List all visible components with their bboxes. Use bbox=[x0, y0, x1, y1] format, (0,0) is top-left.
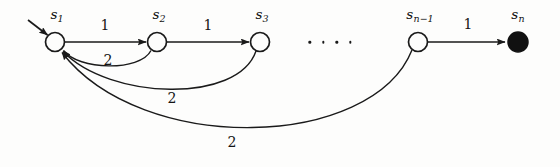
state-ellipsis bbox=[308, 41, 351, 44]
node-sn-minus-1 bbox=[409, 33, 428, 52]
edge-label-sn1-s1: 2 bbox=[228, 134, 237, 150]
edge-label-sn1-sn: 1 bbox=[464, 16, 473, 32]
edge-label-s2-s3: 1 bbox=[204, 17, 213, 33]
edge-s3-s1 bbox=[63, 51, 256, 89]
edge-label-s1-s2: 1 bbox=[101, 17, 110, 33]
diagram-canvas bbox=[0, 0, 560, 167]
node-sn bbox=[508, 32, 528, 52]
node-label-s2: s2 bbox=[152, 6, 165, 24]
ellipsis-dot bbox=[322, 41, 325, 44]
node-s1 bbox=[46, 33, 65, 52]
edge-label-s2-s1: 2 bbox=[104, 52, 113, 68]
ellipsis-dot bbox=[349, 41, 352, 44]
node-label-sn: sn bbox=[511, 6, 524, 24]
node-label-s3: s3 bbox=[255, 6, 268, 24]
edge-start-arrow bbox=[28, 20, 48, 35]
node-s3 bbox=[251, 33, 270, 52]
edge-label-s3-s1: 2 bbox=[168, 90, 177, 106]
node-label-s1: s1 bbox=[50, 6, 63, 24]
ellipsis-dot bbox=[336, 41, 339, 44]
state-transition-diagram: s1 s2 s3 sn−1 sn 1 1 1 2 2 2 bbox=[0, 0, 560, 167]
edge-sn1-s1 bbox=[62, 50, 412, 128]
node-label-sn-minus-1: sn−1 bbox=[406, 6, 433, 24]
node-s2 bbox=[148, 33, 167, 52]
ellipsis-dot bbox=[308, 41, 311, 44]
